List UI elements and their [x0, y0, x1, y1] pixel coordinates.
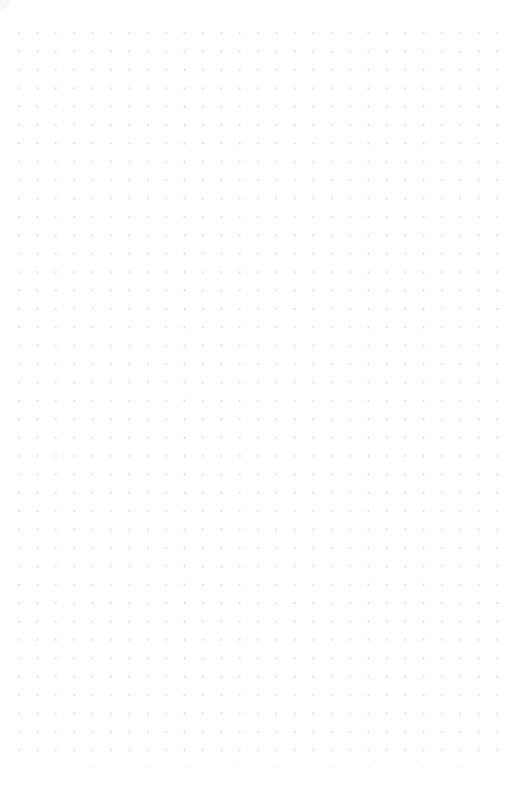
corner-mark	[0, 0, 10, 10]
dot-grid-canvas[interactable]	[18, 32, 515, 768]
blank-canvas-page	[0, 0, 520, 792]
